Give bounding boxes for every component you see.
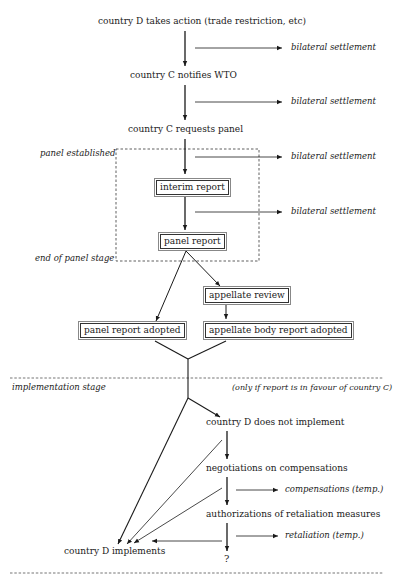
node-d-implements: country D implements [64, 546, 165, 557]
node-c-requests-panel: country C requests panel [128, 124, 243, 135]
label-panel-established: panel established [40, 148, 116, 159]
node-d-takes-action: country D takes action (trade restrictio… [98, 16, 306, 27]
outcome-bilateral-settlement-1: bilateral settlement [291, 42, 376, 53]
label-end-of-panel-stage: end of panel stage [35, 253, 114, 264]
outcome-retaliation-temp: retaliation (temp.) [285, 530, 364, 541]
label-only-if-favour-c: (only if report is in favour of country … [232, 382, 392, 393]
node-unknown-outcome: ? [224, 553, 229, 564]
node-interim-report: interim report [156, 180, 229, 195]
node-appellate-body-report-adopted: appellate body report adopted [205, 323, 352, 338]
outcome-bilateral-settlement-2: bilateral settlement [291, 96, 376, 107]
outcome-compensations-temp: compensations (temp.) [285, 484, 383, 495]
node-d-does-not-implement: country D does not implement [206, 417, 344, 428]
node-negotiations-on-compensations: negotiations on compensations [206, 463, 348, 474]
node-panel-report: panel report [160, 234, 225, 249]
outcome-bilateral-settlement-4: bilateral settlement [291, 206, 376, 217]
node-c-notifies-wto: country C notifies WTO [130, 70, 237, 81]
label-implementation-stage: implementation stage [12, 382, 106, 393]
node-appellate-review: appellate review [205, 288, 289, 303]
node-panel-report-adopted: panel report adopted [80, 323, 185, 338]
node-authorizations-of-retaliation: authorizations of retaliation measures [206, 509, 380, 520]
outcome-bilateral-settlement-3: bilateral settlement [291, 151, 376, 162]
